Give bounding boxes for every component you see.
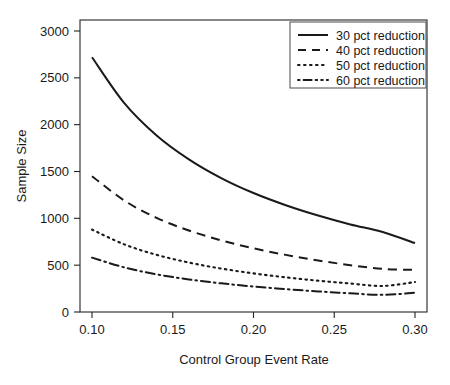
x-axis-title: Control Group Event Rate — [179, 352, 329, 367]
x-tick-label: 0.15 — [160, 322, 185, 337]
legend-label: 40 pct reduction — [336, 44, 425, 58]
y-tick-label: 1000 — [40, 211, 69, 226]
y-tick-label: 3000 — [40, 24, 69, 39]
y-tick-label: 500 — [47, 258, 69, 273]
x-tick-label: 0.10 — [79, 322, 104, 337]
legend-label: 60 pct reduction — [336, 74, 425, 88]
y-tick-label: 2000 — [40, 117, 69, 132]
y-axis-title: Sample Size — [14, 130, 29, 203]
chart-legend: 30 pct reduction40 pct reduction50 pct r… — [290, 22, 426, 88]
y-tick-label: 0 — [62, 305, 69, 320]
chart-svg: 050010001500200025003000 0.100.150.200.2… — [0, 0, 450, 385]
x-tick-label: 0.20 — [241, 322, 266, 337]
chart-figure: 050010001500200025003000 0.100.150.200.2… — [0, 0, 450, 385]
y-tick-label: 1500 — [40, 164, 69, 179]
x-tick-label: 0.30 — [402, 322, 427, 337]
legend-label: 30 pct reduction — [336, 29, 425, 43]
y-tick-label: 2500 — [40, 70, 69, 85]
legend-label: 50 pct reduction — [336, 59, 425, 73]
x-tick-label: 0.25 — [322, 322, 347, 337]
